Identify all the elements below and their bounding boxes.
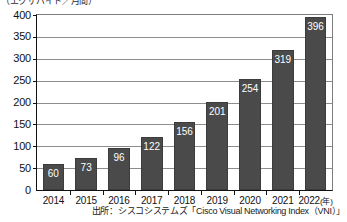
bar[interactable]: 96 bbox=[108, 148, 130, 190]
bar-value-label: 201 bbox=[207, 106, 227, 117]
bar[interactable]: 73 bbox=[75, 158, 97, 190]
x-tick-label: 2016 bbox=[103, 195, 136, 206]
bar-value-label: 319 bbox=[273, 54, 293, 65]
bar[interactable]: 254 bbox=[239, 79, 261, 190]
y-tick-mark bbox=[33, 124, 36, 125]
y-tick-mark bbox=[33, 15, 36, 16]
y-tick-label: 50 bbox=[0, 163, 31, 174]
bar-value-label: 156 bbox=[175, 126, 195, 137]
bar-value-label: 73 bbox=[76, 162, 96, 173]
bar[interactable]: 319 bbox=[272, 50, 294, 190]
y-tick-label: 250 bbox=[0, 75, 31, 86]
bar-slot: 73 bbox=[75, 15, 97, 190]
bar-slot: 60 bbox=[43, 15, 65, 190]
x-tick-mark bbox=[266, 191, 267, 195]
bar-slot: 156 bbox=[174, 15, 196, 190]
x-tick-mark bbox=[168, 191, 169, 195]
bar-slot: 96 bbox=[108, 15, 130, 190]
y-tick-mark bbox=[33, 103, 36, 104]
bar-series: 607396122156201254319396 bbox=[37, 15, 332, 190]
y-tick-label: 100 bbox=[0, 141, 31, 152]
y-tick-label: 0 bbox=[0, 185, 31, 196]
bar-value-label: 254 bbox=[240, 83, 260, 94]
y-tick-mark bbox=[33, 146, 36, 147]
x-tick-mark bbox=[201, 191, 202, 195]
x-tick-label: 2018 bbox=[168, 195, 201, 206]
y-tick-label: 400 bbox=[0, 10, 31, 21]
bar[interactable]: 201 bbox=[206, 102, 228, 190]
x-tick-label: 2014 bbox=[37, 195, 70, 206]
x-axis-labels: 201420152016201720182019202020212022(年) bbox=[36, 191, 333, 207]
y-tick-label: 300 bbox=[0, 53, 31, 64]
x-tick-label: 2019 bbox=[201, 195, 234, 206]
x-tick-mark bbox=[70, 191, 71, 195]
y-tick-mark bbox=[33, 81, 36, 82]
y-tick-label: 150 bbox=[0, 119, 31, 130]
bar-slot: 319 bbox=[272, 15, 294, 190]
y-tick-mark bbox=[33, 168, 36, 169]
bar-value-label: 96 bbox=[109, 152, 129, 163]
bar[interactable]: 60 bbox=[43, 164, 65, 190]
x-axis-unit-suffix: (年) bbox=[320, 197, 333, 206]
y-tick-mark bbox=[33, 37, 36, 38]
x-tick-label: 2015 bbox=[70, 195, 103, 206]
bar-value-label: 60 bbox=[44, 168, 64, 179]
bar-slot: 201 bbox=[206, 15, 228, 190]
bar-slot: 396 bbox=[305, 15, 327, 190]
bar[interactable]: 396 bbox=[305, 17, 327, 190]
bar-value-label: 122 bbox=[142, 141, 162, 152]
x-tick-label: 2020 bbox=[234, 195, 267, 206]
bar[interactable]: 156 bbox=[174, 122, 196, 190]
x-tick-label: 2017 bbox=[135, 195, 168, 206]
bar-slot: 122 bbox=[141, 15, 163, 190]
bar[interactable]: 122 bbox=[141, 137, 163, 190]
x-tick-mark bbox=[234, 191, 235, 195]
x-tick-mark bbox=[135, 191, 136, 195]
bar-value-label: 396 bbox=[306, 21, 326, 32]
y-tick-mark bbox=[33, 59, 36, 60]
x-tick-mark bbox=[103, 191, 104, 195]
x-tick-mark bbox=[299, 191, 300, 195]
y-tick-label: 350 bbox=[0, 31, 31, 42]
y-tick-label: 200 bbox=[0, 97, 31, 108]
y-axis-labels: 050100150200250300350400 bbox=[0, 0, 33, 222]
bar-slot: 254 bbox=[239, 15, 261, 190]
source-note: 出所：シスコシステムズ「Cisco Visual Networking Inde… bbox=[92, 206, 345, 217]
